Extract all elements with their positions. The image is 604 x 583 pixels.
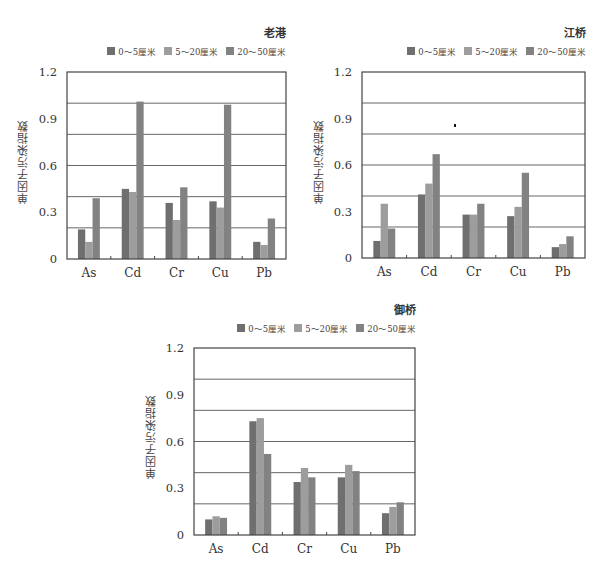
- bar-cu-1: [345, 465, 352, 535]
- bar-as-0: [373, 241, 380, 258]
- bar-cr-1: [173, 220, 180, 259]
- bar-cd-2: [433, 154, 440, 258]
- bar-pb-2: [268, 218, 275, 259]
- bar-cd-2: [264, 454, 271, 535]
- bar-cd-0: [249, 421, 256, 535]
- bar-cu-1: [514, 207, 521, 258]
- y-tick-label: 0: [345, 251, 352, 265]
- bar-cr-1: [470, 215, 477, 258]
- x-tick-label: Pb: [555, 265, 571, 279]
- x-tick-label: As: [80, 266, 96, 280]
- bar-cr-0: [166, 203, 173, 259]
- bar-cd-1: [425, 184, 432, 258]
- chart-laogang: 老港 0～5厘米 5～20厘米 20～50厘米 单因子污染指数 AsCdCrCu…: [0, 0, 300, 290]
- bar-cd-0: [122, 189, 129, 259]
- bar-cr-2: [477, 204, 484, 258]
- bar-cr-2: [308, 477, 315, 535]
- x-tick-label: Cr: [169, 266, 184, 280]
- y-tick-label: 0.3: [166, 481, 184, 495]
- x-tick-label: Cd: [420, 265, 437, 279]
- y-tick-label: 0.6: [39, 159, 57, 173]
- y-tick-label: 0: [177, 528, 184, 542]
- bar-as-1: [85, 242, 92, 259]
- bar-cu-0: [209, 201, 216, 259]
- y-tick-label: 0.6: [166, 435, 184, 449]
- plot-area: AsCdCrCuPb00.30.60.91.2: [300, 0, 604, 290]
- y-tick-label: 0.9: [39, 112, 57, 126]
- y-tick-label: 1.2: [39, 65, 57, 79]
- bar-cd-2: [136, 102, 143, 259]
- y-tick-label: 1.2: [334, 65, 352, 79]
- x-tick-label: Cu: [510, 265, 527, 279]
- bar-cu-0: [507, 216, 514, 258]
- bar-pb-2: [566, 236, 573, 258]
- bar-pb-2: [397, 502, 404, 535]
- bar-pb-1: [559, 244, 566, 258]
- x-tick-label: As: [208, 542, 224, 556]
- y-tick-label: 1.2: [166, 341, 184, 355]
- x-tick-label: As: [376, 265, 392, 279]
- bar-as-1: [381, 204, 388, 258]
- x-tick-label: Pb: [256, 266, 272, 280]
- x-tick-label: Cu: [340, 542, 357, 556]
- bar-cr-0: [463, 215, 470, 258]
- y-tick-label: 0.9: [334, 112, 352, 126]
- bar-cu-2: [522, 173, 529, 258]
- bar-cd-1: [257, 418, 264, 535]
- bar-as-2: [93, 198, 100, 259]
- bar-as-2: [220, 518, 227, 535]
- stray-mark: [454, 124, 456, 127]
- bar-cr-0: [294, 482, 301, 535]
- bar-as-0: [205, 519, 212, 535]
- bar-cr-2: [180, 187, 187, 259]
- bar-as-1: [212, 516, 219, 535]
- bar-pb-1: [389, 507, 396, 535]
- bar-cd-1: [129, 192, 136, 259]
- x-tick-label: Cd: [124, 266, 141, 280]
- bar-cu-2: [224, 105, 231, 259]
- bar-cu-0: [338, 477, 345, 535]
- y-tick-label: 0.6: [334, 158, 352, 172]
- bar-cu-2: [352, 471, 359, 535]
- bar-pb-0: [253, 242, 260, 259]
- y-tick-label: 0.3: [334, 205, 352, 219]
- chart-yuqiao: 御桥 0～5厘米 5～20厘米 20～50厘米 单因子污染指数 AsCdCrCu…: [130, 290, 430, 583]
- y-tick-label: 0: [50, 252, 57, 266]
- bar-cd-0: [418, 194, 425, 258]
- x-tick-label: Cr: [297, 542, 312, 556]
- x-tick-label: Pb: [385, 542, 401, 556]
- bar-pb-0: [552, 247, 559, 258]
- x-tick-label: Cu: [212, 266, 229, 280]
- plot-area: AsCdCrCuPb00.30.60.91.2: [0, 0, 300, 290]
- plot-area: AsCdCrCuPb00.30.60.91.2: [130, 290, 430, 583]
- bar-pb-1: [260, 245, 267, 259]
- x-tick-label: Cd: [252, 542, 269, 556]
- bar-as-2: [388, 229, 395, 258]
- y-tick-label: 0.9: [166, 388, 184, 402]
- y-tick-label: 0.3: [39, 205, 57, 219]
- chart-jiangqiao: 江桥 0～5厘米 5～20厘米 20～50厘米 单因子污染指数 AsCdCrCu…: [300, 0, 604, 290]
- bar-cu-1: [217, 208, 224, 259]
- bar-cr-1: [301, 468, 308, 535]
- bar-pb-0: [382, 513, 389, 535]
- bar-as-0: [78, 229, 85, 259]
- x-tick-label: Cr: [466, 265, 481, 279]
